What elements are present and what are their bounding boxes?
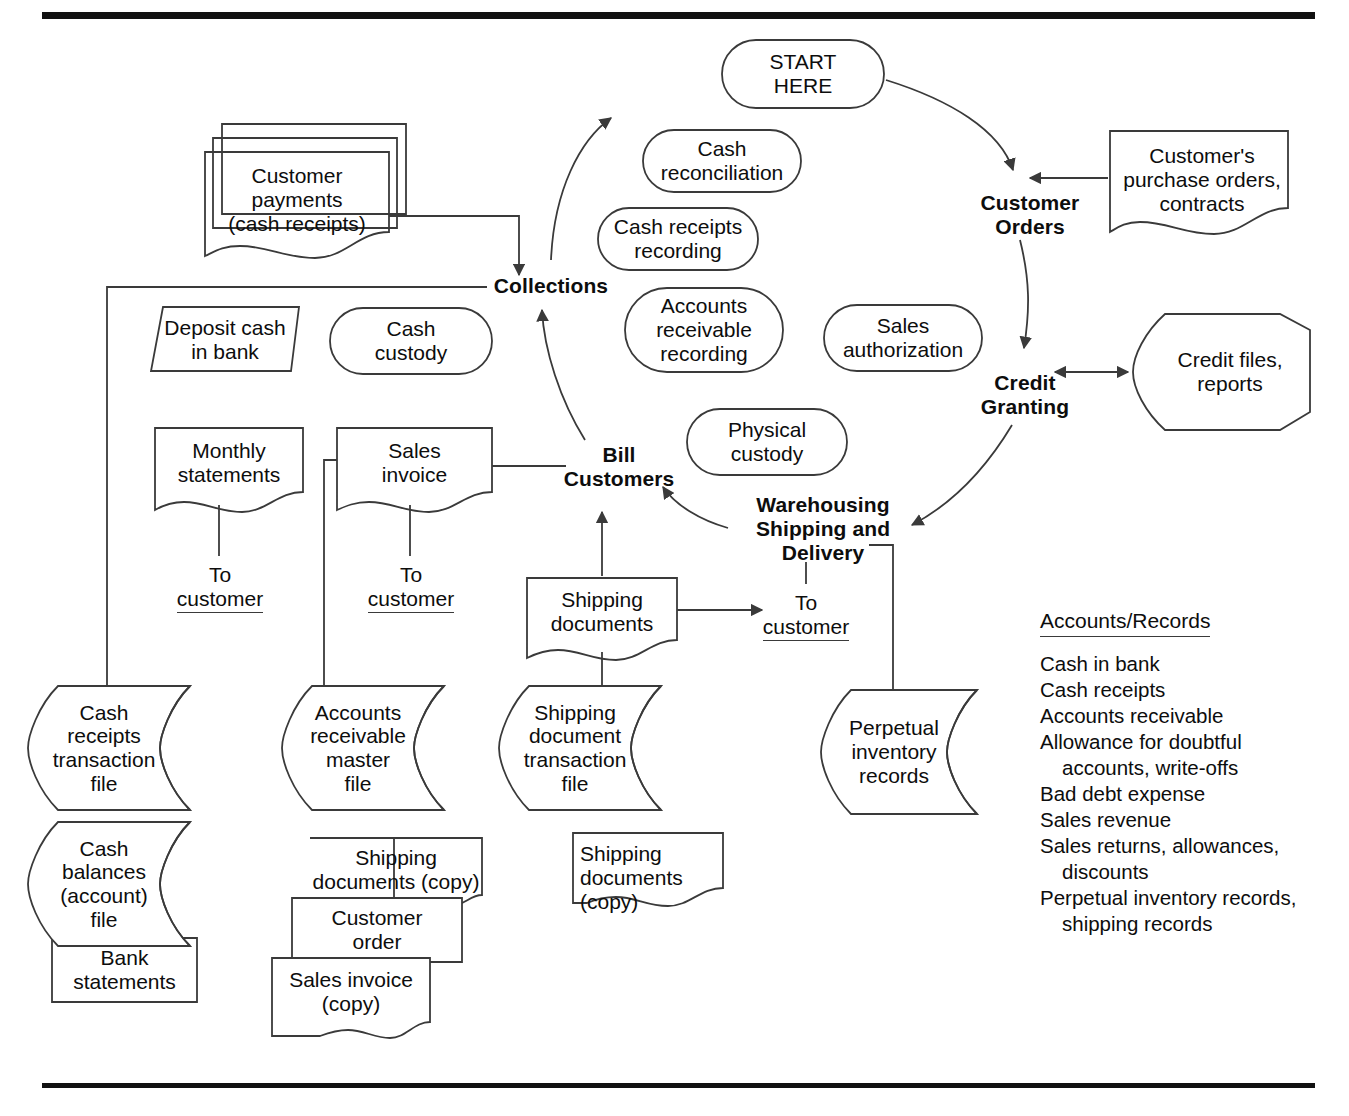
document-shipping-documents-copy-mid[interactable]: Shipping documents (copy)	[580, 838, 730, 918]
connector-to-customer-invoice: To customer	[351, 556, 471, 620]
to-customer-line2: customer	[177, 587, 263, 614]
process-customer-orders[interactable]: Customer Orders	[945, 188, 1115, 242]
process-bill-customers[interactable]: Bill Customers	[548, 440, 690, 494]
accounts-records-item: Sales returns, allowances,	[1040, 833, 1330, 859]
offpage-credit-files-reports[interactable]: Credit files, reports	[1150, 330, 1310, 414]
accounts-records-item: Accounts receivable	[1040, 703, 1330, 729]
to-customer-line2: customer	[368, 587, 454, 614]
to-customer-line1: To	[795, 591, 817, 615]
process-collections[interactable]: Collections	[470, 268, 632, 304]
file-accounts-receivable-master-file[interactable]: Accounts receivable master file	[294, 688, 422, 808]
document-shipping-documents[interactable]: Shipping documents	[527, 582, 677, 642]
accounts-records-item: discounts	[1040, 859, 1330, 885]
to-customer-line1: To	[400, 563, 422, 587]
accounts-records-heading: Accounts/Records	[1040, 608, 1210, 637]
arrow-customer-orders-to-credit-granting	[1020, 240, 1028, 348]
process-warehousing-shipping-delivery[interactable]: Warehousing Shipping and Delivery	[730, 490, 916, 568]
document-customer-payments[interactable]: Customer payments (cash receipts)	[205, 160, 389, 240]
connector-to-customer-statements: To customer	[160, 556, 280, 620]
operation-accounts-receivable-recording[interactable]: Accounts receivable recording	[625, 288, 783, 372]
process-credit-granting[interactable]: Credit Granting	[940, 368, 1110, 422]
document-customers-purchase-orders[interactable]: Customer's purchase orders, contracts	[1113, 138, 1291, 222]
operation-cash-receipts-recording[interactable]: Cash receipts recording	[598, 208, 758, 270]
diagram-page: START HERE Customer Orders Credit Granti…	[0, 0, 1349, 1116]
file-shipping-document-transaction-file[interactable]: Shipping document transaction file	[511, 688, 639, 808]
document-sales-invoice[interactable]: Sales invoice	[337, 432, 492, 494]
file-cash-balances-account-file[interactable]: Cash balances (account) file	[40, 824, 168, 944]
accounts-records-item: Cash in bank	[1040, 651, 1330, 677]
file-cash-receipts-transaction-file[interactable]: Cash receipts transaction file	[40, 688, 168, 808]
arrow-start-to-customer-orders	[886, 80, 1013, 170]
accounts-records-item: Bad debt expense	[1040, 781, 1330, 807]
operation-cash-custody[interactable]: Cash custody	[330, 308, 492, 374]
document-sales-invoice-copy[interactable]: Sales invoice (copy)	[272, 962, 430, 1022]
accounts-records-item: Perpetual inventory records,	[1040, 885, 1330, 911]
document-monthly-statements[interactable]: Monthly statements	[155, 432, 303, 494]
accounts-records-item: Sales revenue	[1040, 807, 1330, 833]
arrow-credit-granting-to-warehousing	[912, 425, 1012, 525]
accounts-records-list: Cash in bankCash receiptsAccounts receiv…	[1040, 651, 1330, 937]
document-shipping-documents-copy-left[interactable]: Shipping documents (copy)	[306, 842, 486, 898]
line-sales-invoice-to-ar-master-file	[324, 460, 337, 686]
operation-sales-authorization[interactable]: Sales authorization	[824, 305, 982, 371]
to-customer-line2: customer	[763, 615, 849, 642]
document-customer-order-copy[interactable]: Customer order	[292, 900, 462, 960]
connector-to-customer-shipping: To customer	[746, 584, 866, 648]
operation-cash-reconciliation[interactable]: Cash reconciliation	[643, 130, 801, 192]
operation-physical-custody[interactable]: Physical custody	[687, 409, 847, 475]
accounts-records-item: shipping records	[1040, 911, 1330, 937]
accounts-records-item: accounts, write-offs	[1040, 755, 1330, 781]
manual-operation-deposit-cash-in-bank[interactable]: Deposit cash in bank	[155, 310, 295, 370]
to-customer-line1: To	[209, 563, 231, 587]
start-here-label: START HERE	[722, 40, 884, 108]
accounts-records-panel: Accounts/Records Cash in bankCash receip…	[1040, 608, 1330, 937]
accounts-records-item: Cash receipts	[1040, 677, 1330, 703]
line-customer-payments-to-collections	[389, 216, 519, 275]
document-bank-statements[interactable]: Bank statements	[52, 940, 197, 1000]
accounts-records-item: Allowance for doubtful	[1040, 729, 1330, 755]
arrow-bill-customers-to-collections	[542, 310, 585, 440]
file-perpetual-inventory-records[interactable]: Perpetual inventory records	[833, 700, 955, 804]
